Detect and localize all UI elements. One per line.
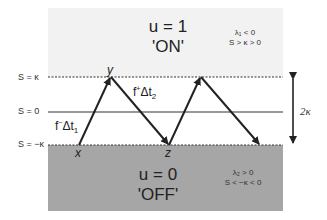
point-z-label: z: [165, 147, 171, 159]
lower-level-label: S = −κ: [18, 140, 44, 149]
point-x-label: x: [75, 147, 81, 159]
on-condition-lambda: λ₁ < 0: [210, 28, 280, 37]
off-label: 'OFF': [118, 186, 198, 203]
off-condition-s: S < −κ < 0: [208, 178, 278, 187]
band-width-label: 2κ: [300, 106, 311, 117]
on-condition-s: S > κ > 0: [210, 38, 280, 47]
rise-duration-label: f−Δt1: [55, 119, 78, 135]
zero-level-label: S = 0: [18, 107, 39, 116]
sliding-mode-switching-diagram: u = 1 'ON' λ₁ < 0 S > κ > 0 u = 0 'OFF' …: [0, 0, 327, 220]
on-state-label: u = 1: [128, 18, 208, 35]
trajectory: [79, 77, 259, 145]
on-label: 'ON': [128, 38, 208, 55]
off-state-label: u = 0: [118, 166, 198, 183]
upper-level-label: S = κ: [18, 73, 39, 82]
point-y-label: y: [107, 64, 113, 76]
fall-duration-label: f+Δt2: [133, 85, 156, 101]
off-condition-lambda: λ₂ > 0: [208, 168, 278, 177]
